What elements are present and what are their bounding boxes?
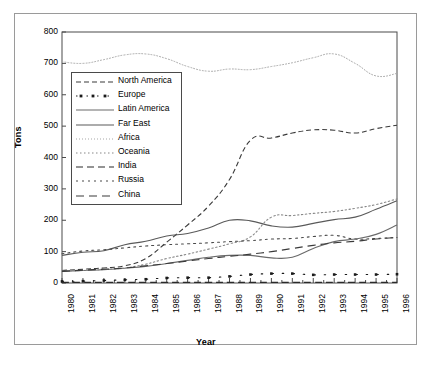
x-tick-label: 1990: [275, 294, 285, 313]
legend-item-latin-america[interactable]: Latin America: [72, 101, 181, 115]
legend-line-sample-icon: [75, 117, 115, 129]
legend-item-label: China: [118, 189, 140, 199]
x-tick-label: 1980: [66, 294, 76, 313]
series-marker: [375, 273, 378, 276]
legend-line-sample-icon: [75, 102, 115, 114]
x-tick-label: 1991: [296, 294, 306, 313]
y-tick-label: 700: [32, 57, 58, 67]
legend-item-china[interactable]: China: [72, 187, 181, 201]
legend-item-europe[interactable]: Europe: [72, 87, 181, 101]
legend-item-oceania[interactable]: Oceania: [72, 144, 181, 158]
x-tick-label: 1984: [150, 294, 160, 313]
series-marker: [82, 280, 85, 283]
series-marker: [333, 273, 336, 276]
y-tick-label: 200: [32, 214, 58, 224]
series-marker: [165, 277, 168, 280]
legend-line-sample-icon: [75, 88, 115, 100]
legend-line-sample-icon: [75, 188, 115, 200]
legend-line-sample-icon: [75, 159, 115, 171]
x-tick-label: 1981: [87, 294, 97, 313]
x-tick-label: 1982: [108, 294, 118, 313]
x-tick-label: 1986: [192, 294, 202, 313]
series-marker: [291, 272, 294, 275]
series-marker: [312, 274, 315, 277]
y-tick-label: 500: [32, 120, 58, 130]
chart-legend[interactable]: North AmericaEuropeLatin AmericaFar East…: [71, 72, 182, 205]
legend-item-label: Oceania: [118, 146, 150, 156]
series-marker: [270, 272, 273, 275]
legend-item-russia[interactable]: Russia: [72, 172, 181, 186]
x-tick-label: 1992: [317, 294, 327, 313]
y-tick-label: 800: [32, 26, 58, 36]
series-marker: [124, 279, 127, 282]
y-axis-title: Tons: [13, 126, 23, 148]
y-tick-label: 100: [32, 246, 58, 256]
legend-item-label: North America: [118, 75, 172, 85]
x-tick-label: 1988: [234, 294, 244, 313]
x-tick-label: 1994: [359, 294, 369, 313]
y-tick-label: 0: [32, 277, 58, 287]
x-tick-label: 1995: [380, 294, 390, 313]
legend-line-sample-icon: [75, 145, 115, 157]
legend-line-sample-icon: [75, 74, 115, 86]
legend-item-india[interactable]: India: [72, 158, 181, 172]
series-marker: [228, 275, 231, 278]
y-tick-label: 400: [32, 152, 58, 162]
legend-line-sample-icon: [75, 173, 115, 185]
y-tick-label: 300: [32, 183, 58, 193]
legend-item-label: Far East: [118, 118, 150, 128]
x-tick-label: 1983: [129, 294, 139, 313]
legend-item-label: Russia: [118, 174, 144, 184]
legend-item-label: India: [118, 160, 136, 170]
legend-item-africa[interactable]: Africa: [72, 130, 181, 144]
legend-item-label: Latin America: [118, 103, 170, 113]
x-axis-title: Year: [196, 337, 216, 347]
x-tick-label: 1993: [338, 294, 348, 313]
legend-line-sample-icon: [75, 131, 115, 143]
x-tick-label: 1985: [171, 294, 181, 313]
legend-item-north-america[interactable]: North America: [72, 73, 181, 87]
series-marker: [249, 273, 252, 276]
series-marker: [354, 273, 357, 276]
series-marker: [207, 276, 210, 279]
legend-item-far-east[interactable]: Far East: [72, 116, 181, 130]
x-tick-label: 1987: [213, 294, 223, 313]
legend-item-label: Europe: [118, 89, 145, 99]
series-marker: [103, 279, 106, 282]
series-marker: [396, 273, 399, 276]
series-marker: [144, 278, 147, 281]
y-tick-label: 600: [32, 89, 58, 99]
x-tick-label: 1996: [401, 294, 411, 313]
figure-canvas: 8007006005004003002001000 19801981198219…: [0, 0, 433, 366]
series-marker: [186, 276, 189, 279]
x-tick-label: 1989: [254, 294, 264, 313]
legend-item-label: Africa: [118, 132, 140, 142]
